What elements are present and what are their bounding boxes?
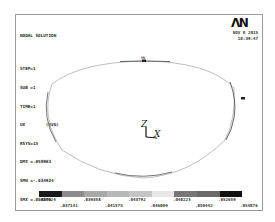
legend-label-4: .043792 (128, 197, 146, 202)
legend-label-9: .054876 (240, 203, 258, 208)
legend-label-1: .037141 (60, 203, 78, 208)
max-marker (241, 97, 245, 100)
min-label: MN (141, 56, 145, 60)
legend-band-2 (62, 191, 85, 197)
legend-band-4 (107, 191, 130, 197)
legend-band-8 (197, 191, 220, 197)
legend-band-6 (152, 191, 175, 197)
legend-label-3: .041575 (105, 203, 123, 208)
legend-label-6: .048225 (173, 197, 191, 202)
triad-x-label: X (153, 129, 161, 139)
legend-label-8: .052659 (218, 197, 236, 202)
axis-triad: Z X (140, 119, 161, 139)
legend-label-7: .050442 (195, 203, 213, 208)
triad-z-label: Z (140, 119, 148, 129)
contour-plot: MN Z X (0, 0, 275, 222)
legend-label-5: .046009 (150, 203, 168, 208)
legend-label-2: .039358 (83, 197, 101, 202)
legend-label-0: .034924 (38, 197, 56, 202)
